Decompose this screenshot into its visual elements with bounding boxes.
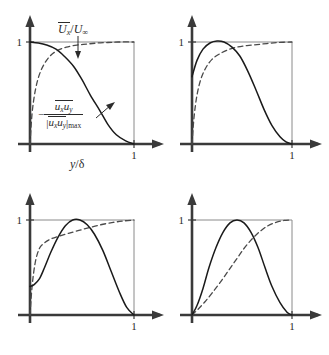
y-tick-label-1: 1 [179,36,185,48]
plot-frame [192,220,292,315]
figure-container: 11111111Ux/U∞−uxuy|uxuy|maxy/δ [0,0,329,355]
reynolds-stress-label: −uxuy|uxuy|max [38,100,83,130]
x-tick-label-1: 1 [289,320,295,332]
x-axis-label: y/δ [70,158,84,170]
panel-2: 11 [170,8,326,180]
x-axis-label-denominator: δ [79,157,85,171]
x-axis-arrow [310,310,322,319]
axes [18,193,164,323]
y-axis-arrow [25,15,34,27]
curve-dashed-mean-velocity [30,220,134,315]
curve-dashed-mean-velocity [192,42,292,144]
ticks [26,220,134,319]
panel-3: 11 [8,186,168,351]
curve-solid-Reynolds-shear-stress [192,220,292,315]
mean-velocity-symbol: U [58,22,67,36]
y-tick-label-1: 1 [17,36,23,48]
axes [180,193,322,323]
x-axis-arrow [310,139,322,148]
curve-solid-Reynolds-shear-stress [192,41,292,144]
x-tick-label-1: 1 [289,149,295,161]
ticks [188,220,292,319]
curve-solid-Reynolds-shear-stress [30,219,134,315]
curve-dashed-mean-velocity [192,220,292,315]
x-axis-arrow [152,139,164,148]
reynolds-stress-leader-arrow [94,102,118,122]
y-tick-label-1: 1 [179,214,185,226]
y-axis-arrow [187,15,196,27]
x-tick-label-1: 1 [131,320,137,332]
x-axis-arrow [152,310,164,319]
axes [180,15,322,152]
panel-4: 11 [170,186,326,351]
y-axis-arrow [187,193,196,205]
axes [18,15,164,152]
y-axis-arrow [25,193,34,205]
x-tick-label-1: 1 [131,149,137,161]
mean-velocity-leader-arrow [70,36,90,62]
plot-frame [30,220,134,315]
plot-frame [192,42,292,144]
y-tick-label-1: 1 [17,214,23,226]
